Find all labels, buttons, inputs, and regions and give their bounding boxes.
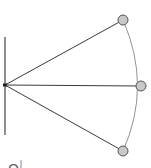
- pendulum-diagram: Q: [0, 0, 151, 168]
- string-bottom: [5, 85, 123, 151]
- bob-top: [118, 15, 128, 25]
- cut-label: Q: [8, 161, 19, 168]
- bob-middle: [136, 81, 146, 91]
- string-top: [5, 20, 123, 85]
- pivot-point: [3, 84, 7, 87]
- bob-bottom: [118, 146, 128, 156]
- string-middle: [5, 85, 141, 86]
